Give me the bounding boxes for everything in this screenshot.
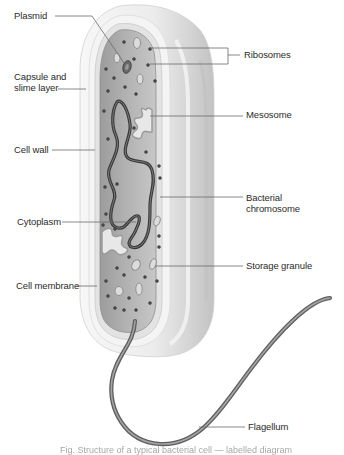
label-storage-granule: Storage granule [246,260,312,271]
figure-caption: Fig. Structure of a typical bacterial ce… [60,445,340,455]
label-ribosomes: Ribosomes [244,49,291,60]
bacterial-cell-illustration [0,0,344,455]
label-flagellum: Flagellum [248,421,288,432]
bacterial-cell-diagram: Plasmid Ribosomes Capsule and slime laye… [0,0,344,455]
label-mesosome: Mesosome [246,109,292,120]
label-capsule-slime-layer: Capsule and slime layer [14,71,66,93]
label-cell-wall: Cell wall [14,144,48,155]
label-plasmid: Plasmid [14,10,47,21]
label-cytoplasm: Cytoplasm [17,216,61,227]
label-cell-membrane: Cell membrane [16,280,79,291]
label-bacterial-chromosome: Bacterial chromosome [246,192,300,214]
